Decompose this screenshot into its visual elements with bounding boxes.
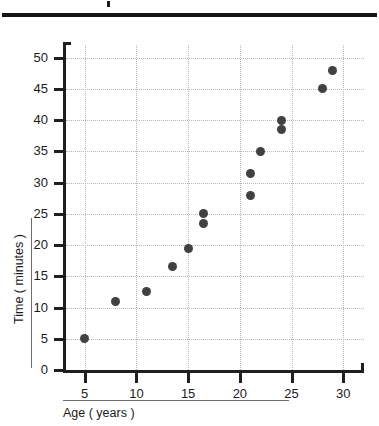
scatter-point xyxy=(277,125,286,134)
y-axis-tick xyxy=(54,150,64,153)
scatter-point xyxy=(246,191,255,200)
x-axis-tick-label: 15 xyxy=(168,387,208,400)
gridline-horizontal xyxy=(66,58,364,59)
gridline-vertical xyxy=(343,45,344,370)
y-axis-tick xyxy=(54,88,64,91)
scatter-point xyxy=(246,169,255,178)
scatter-point xyxy=(256,147,265,156)
gridline-horizontal xyxy=(66,151,364,152)
scatter-point xyxy=(184,244,193,253)
x-axis-line xyxy=(63,370,364,373)
scatter-point xyxy=(142,287,151,296)
x-axis-tick xyxy=(135,373,138,383)
gridline-horizontal xyxy=(66,214,364,215)
y-axis-tick-label: 50 xyxy=(14,51,48,64)
gridline-vertical xyxy=(136,45,137,370)
x-axis-tick-label: 25 xyxy=(272,387,312,400)
gridline-vertical xyxy=(240,45,241,370)
y-axis-tick xyxy=(54,275,64,278)
gridline-horizontal xyxy=(66,339,364,340)
scatter-point xyxy=(80,334,89,343)
y-axis-tick-label: 45 xyxy=(14,82,48,95)
y-axis-tick xyxy=(54,119,64,122)
y-axis-title: Time ( minutes ) xyxy=(12,204,26,354)
scatter-point xyxy=(168,262,177,271)
gridline-vertical xyxy=(85,45,86,370)
x-axis-cap xyxy=(361,363,364,373)
gridline-horizontal xyxy=(66,308,364,309)
x-axis-tick-label: 10 xyxy=(116,387,156,400)
y-axis-line xyxy=(63,42,66,373)
scatter-point xyxy=(318,84,327,93)
x-axis-tick xyxy=(84,373,87,383)
y-axis-tick xyxy=(54,369,64,372)
y-axis-tick xyxy=(54,182,64,185)
scatter-point xyxy=(199,219,208,228)
gridline-horizontal xyxy=(66,183,364,184)
x-axis-tick xyxy=(342,373,345,383)
x-axis-title: Age ( years ) xyxy=(63,406,135,420)
scatter-point xyxy=(199,209,208,218)
y-axis-tick xyxy=(54,213,64,216)
x-axis-tick xyxy=(187,373,190,383)
top-mark-glyph xyxy=(107,1,110,7)
x-axis-tick xyxy=(291,373,294,383)
gridline-horizontal xyxy=(66,245,364,246)
scatter-point xyxy=(111,297,120,306)
top-divider-rule xyxy=(2,13,377,17)
y-axis-tick xyxy=(54,338,64,341)
y-axis-tick-label: 35 xyxy=(14,144,48,157)
x-axis-tick-label: 5 xyxy=(65,387,105,400)
scatter-point xyxy=(328,66,337,75)
gridline-vertical xyxy=(292,45,293,370)
y-axis-tick xyxy=(54,307,64,310)
gridline-vertical xyxy=(188,45,189,370)
x-axis-tick xyxy=(239,373,242,383)
gridline-horizontal xyxy=(66,120,364,121)
y-axis-tick xyxy=(54,244,64,247)
x-axis-title-rule xyxy=(63,400,289,401)
y-axis-tick-label: 30 xyxy=(14,176,48,189)
y-axis-tick-label: 40 xyxy=(14,113,48,126)
scatter-point xyxy=(277,116,286,125)
x-axis-tick-label: 30 xyxy=(323,387,363,400)
y-axis-title-rule xyxy=(31,218,32,368)
y-axis-tick xyxy=(54,57,64,60)
chart-container: 05101520253035404550 51015202530 Time ( … xyxy=(0,0,379,426)
x-axis-tick-label: 20 xyxy=(220,387,260,400)
gridline-horizontal xyxy=(66,276,364,277)
